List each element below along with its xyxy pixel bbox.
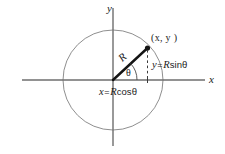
y-component-angle-symbol: θ xyxy=(182,59,187,70)
point-marker xyxy=(145,45,150,50)
x-component-trig-function: cos xyxy=(117,86,132,97)
point-coordinate-label: (x, y ) xyxy=(151,33,177,43)
y-component-equation: y=Rsinθ xyxy=(152,60,187,71)
x-axis-label: x xyxy=(209,74,214,85)
x-component-equation: x=Rcosθ xyxy=(99,87,137,98)
angle-arc xyxy=(131,64,137,81)
figure-container: y x (x, y ) R θ y=Rsinθ x=Rcosθ xyxy=(0,0,225,154)
y-component-trig-function: sin xyxy=(170,59,182,70)
diagram-canvas xyxy=(0,0,225,154)
x-component-angle-symbol: θ xyxy=(132,86,137,97)
angle-theta-label: θ xyxy=(126,68,131,78)
y-axis-label: y xyxy=(107,3,112,14)
